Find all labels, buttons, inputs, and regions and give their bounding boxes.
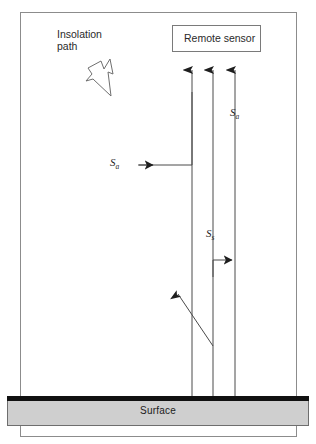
diagram-canvas: Insolation path Remote sensor Surface Sa… [0, 0, 316, 444]
insolation-path-label: Insolation path [57, 29, 102, 53]
diagram-svg [0, 0, 316, 444]
symbol-sa-mid: Sa [110, 156, 119, 171]
symbol-ss: Ss [206, 227, 214, 242]
surface-bar-cap [7, 396, 309, 401]
insolation-path-label-line2: path [57, 41, 102, 53]
symbol-sa-top: Sa [230, 106, 239, 121]
remote-sensor-label: Remote sensor [184, 33, 255, 45]
surface-label: Surface [0, 405, 316, 416]
insolation-path-label-line1: Insolation [57, 29, 102, 41]
symbol-sa-top-sub: a [236, 112, 240, 121]
symbol-ss-sub: s [212, 233, 215, 242]
symbol-sa-mid-sub: a [116, 162, 120, 171]
diagram-frame [21, 13, 297, 437]
